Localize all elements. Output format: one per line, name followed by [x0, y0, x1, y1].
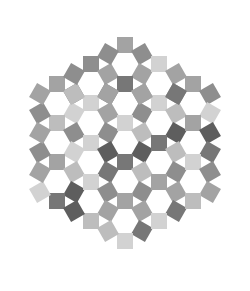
- square-tile: [29, 102, 51, 124]
- square-tile: [165, 102, 187, 124]
- square-tile: [29, 83, 51, 105]
- square-tile: [63, 161, 85, 183]
- square-tile: [63, 63, 85, 85]
- square-tile: [97, 200, 119, 222]
- square-tile: [83, 213, 99, 229]
- square-tile: [165, 200, 187, 222]
- square-tile: [63, 181, 85, 203]
- square-tile: [49, 154, 65, 170]
- square-tile: [131, 83, 153, 105]
- square-tile: [165, 122, 187, 144]
- square-tile: [49, 76, 65, 92]
- square-tile: [131, 122, 153, 144]
- square-tile: [97, 63, 119, 85]
- square-tile: [131, 102, 153, 124]
- square-tile: [97, 181, 119, 203]
- square-tile: [131, 220, 153, 242]
- square-tile: [165, 161, 187, 183]
- square-tile: [131, 161, 153, 183]
- square-tile: [131, 200, 153, 222]
- square-tile: [165, 83, 187, 105]
- square-tile: [131, 43, 153, 65]
- square-tile: [185, 76, 201, 92]
- square-tile: [97, 102, 119, 124]
- square-tile: [49, 115, 65, 131]
- square-tile: [63, 102, 85, 124]
- square-tile: [199, 181, 221, 203]
- square-tile: [29, 161, 51, 183]
- square-tile: [97, 161, 119, 183]
- square-tile: [117, 154, 133, 170]
- square-tile: [151, 174, 167, 190]
- square-tile: [97, 83, 119, 105]
- square-tile: [117, 115, 133, 131]
- square-tile: [83, 174, 99, 190]
- square-tile: [131, 181, 153, 203]
- square-tile: [199, 141, 221, 163]
- square-tile: [29, 141, 51, 163]
- square-tile: [63, 141, 85, 163]
- square-tile: [165, 141, 187, 163]
- square-tile: [63, 200, 85, 222]
- square-tile: [97, 122, 119, 144]
- square-tile: [63, 122, 85, 144]
- square-tile: [29, 181, 51, 203]
- tiling-figure: [0, 0, 250, 291]
- square-tile: [97, 220, 119, 242]
- square-tile: [165, 181, 187, 203]
- square-tile: [199, 102, 221, 124]
- square-tile: [131, 63, 153, 85]
- square-tile: [29, 122, 51, 144]
- square-tile: [185, 193, 201, 209]
- square-tile: [199, 161, 221, 183]
- square-tile: [117, 233, 133, 249]
- square-tile: [185, 115, 201, 131]
- square-tile: [151, 56, 167, 72]
- square-tile: [151, 213, 167, 229]
- square-tile: [165, 63, 187, 85]
- square-tile: [185, 154, 201, 170]
- square-tile: [117, 76, 133, 92]
- square-tile: [63, 83, 85, 105]
- square-tile: [97, 43, 119, 65]
- square-tile: [199, 83, 221, 105]
- square-tile: [199, 122, 221, 144]
- square-tile: [83, 56, 99, 72]
- square-tile: [97, 141, 119, 163]
- square-tile: [131, 141, 153, 163]
